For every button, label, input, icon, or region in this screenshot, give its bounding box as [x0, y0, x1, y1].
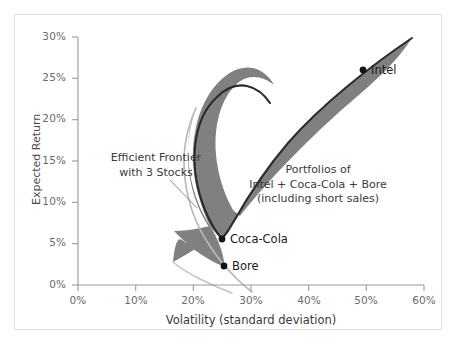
y-tick-label-0: 0% — [28, 278, 66, 290]
portfolios-annotation-line-1: Portfolios of — [232, 163, 404, 178]
x-axis-title: Volatility (standard deviation) — [128, 313, 374, 327]
portfolios-annotation: Portfolios of Intel + Coca-Cola + Bore (… — [232, 163, 404, 207]
x-tick-label-50: 50% — [346, 294, 386, 306]
data-point-label-coca-cola: Coca-Cola — [230, 232, 288, 246]
x-tick-label-40: 40% — [289, 294, 329, 306]
y-tick-label-5: 5% — [28, 236, 66, 248]
data-point-label-bore: Bore — [232, 259, 258, 273]
x-tick-label-20: 20% — [173, 294, 213, 306]
y-tick-label-25: 25% — [28, 71, 66, 83]
x-tick-label-10: 10% — [116, 294, 156, 306]
chart-figure: 30% 25% 20% 15% 10% 5% 0% 0% 10% 20% 30%… — [0, 0, 458, 348]
y-tick-label-30: 30% — [28, 30, 66, 42]
data-point-label-intel: Intel — [371, 63, 396, 77]
y-axis-title: Expected Return — [30, 114, 43, 205]
data-point-intel — [360, 67, 367, 74]
efficient-frontier-annotation-line-2: with 3 Stocks — [96, 166, 216, 181]
portfolios-annotation-line-2: Intel + Coca-Cola + Bore — [232, 178, 404, 193]
y-axis-ticks — [72, 37, 78, 285]
data-point-bore — [221, 263, 228, 270]
efficient-frontier-annotation: Efficient Frontier with 3 Stocks — [96, 151, 216, 180]
x-axis-ticks — [78, 285, 424, 291]
efficient-frontier-leader-line — [170, 180, 197, 208]
x-tick-label-60: 60% — [404, 294, 444, 306]
x-tick-label-30: 30% — [231, 294, 271, 306]
data-point-coca-cola — [219, 236, 226, 243]
portfolios-annotation-line-3: (including short sales) — [232, 192, 404, 207]
x-tick-label-0: 0% — [58, 294, 98, 306]
efficient-frontier-annotation-line-1: Efficient Frontier — [96, 151, 216, 166]
